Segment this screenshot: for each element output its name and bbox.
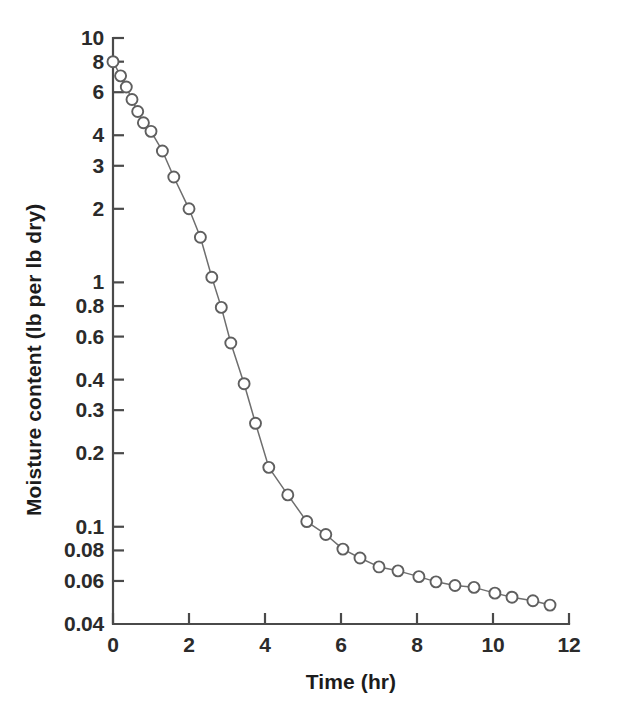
y-tick-label: 0.4 [75, 368, 104, 392]
x-tick-label: 0 [107, 633, 118, 657]
data-point-marker [195, 232, 206, 243]
x-tick-label: 12 [558, 633, 581, 657]
data-point-marker [206, 272, 217, 283]
data-point-marker [121, 82, 132, 93]
axes [113, 38, 569, 624]
data-point-marker [413, 571, 424, 582]
data-point-marker [489, 588, 500, 599]
data-point-marker [239, 378, 250, 389]
axis-ticks [113, 38, 569, 624]
data-point-marker [225, 337, 236, 348]
y-tick-label: 10 [81, 26, 104, 50]
y-tick-label: 4 [93, 123, 104, 147]
data-point-marker [320, 529, 331, 540]
y-tick-label: 0.06 [64, 569, 104, 593]
y-tick-label: 0.2 [75, 441, 104, 465]
data-point-marker [216, 302, 227, 313]
data-point-marker [545, 600, 556, 611]
data-point-marker [337, 544, 348, 555]
data-point-marker [250, 418, 261, 429]
x-tick-label: 6 [335, 633, 346, 657]
data-point-marker [115, 70, 126, 81]
y-tick-label: 6 [93, 80, 104, 104]
data-point-marker [108, 56, 119, 67]
data-point-marker [374, 561, 385, 572]
y-tick-label: 3 [93, 154, 104, 178]
data-point-marker [393, 565, 404, 576]
chart-figure: 108643210.80.60.40.30.20.10.080.060.04 0… [0, 0, 625, 724]
x-axis-title: Time (hr) [306, 670, 396, 694]
data-point-marker [127, 94, 138, 105]
data-series [108, 56, 556, 610]
data-point-marker [527, 595, 538, 606]
data-point-marker [450, 580, 461, 591]
y-tick-label: 0.8 [75, 294, 104, 318]
axis-spine [113, 38, 569, 624]
y-tick-label: 0.3 [75, 398, 104, 422]
y-axis-title: Moisture content (lb per lb dry) [22, 204, 46, 516]
data-point-marker [263, 462, 274, 473]
data-point-marker [431, 576, 442, 587]
y-tick-label: 0.04 [64, 612, 104, 636]
y-tick-label: 2 [93, 197, 104, 221]
data-point-marker [168, 171, 179, 182]
y-tick-label: 0.1 [75, 515, 104, 539]
data-point-marker [132, 106, 143, 117]
x-tick-label: 10 [482, 633, 505, 657]
x-tick-label: 2 [183, 633, 194, 657]
data-point-marker [157, 145, 168, 156]
y-tick-label: 1 [93, 270, 104, 294]
data-point-marker [469, 582, 480, 593]
data-point-marker [355, 552, 366, 563]
data-point-marker [184, 203, 195, 214]
data-point-marker [146, 126, 157, 137]
data-point-marker [301, 516, 312, 527]
data-point-marker [282, 489, 293, 500]
data-point-marker [507, 592, 518, 603]
x-tick-label: 8 [411, 633, 422, 657]
series-line [113, 62, 550, 605]
y-tick-label: 8 [93, 50, 104, 74]
y-tick-label: 0.08 [64, 538, 104, 562]
y-tick-label: 0.6 [75, 325, 104, 349]
x-tick-label: 4 [259, 633, 270, 657]
